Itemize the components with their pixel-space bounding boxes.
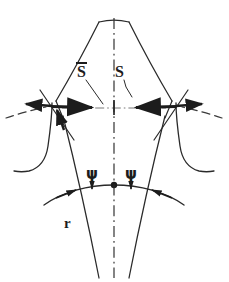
s-leader-line [124,80,132,97]
figure-container: S S r ψ ψ [0,0,229,282]
radius-label: r [64,216,71,231]
s-dimension-arrow [136,107,176,108]
psi-left-label: ψ [86,167,98,182]
technical-diagram-svg [0,0,229,282]
right-crossing-lines [154,90,188,140]
s-label: S [115,64,124,80]
s-bar-glyph: S [77,62,86,80]
s-bar-dimension-arrow [52,107,92,108]
psi-right-label: ψ [125,167,137,182]
pitch-arc-left-arrowhead [56,190,76,198]
left-arc-extension [6,107,46,118]
left-crossing-lines [40,90,74,140]
left-outward-arrow [26,104,52,106]
s-bar-label: S [77,62,86,80]
s-bar-leader-line [86,80,103,104]
pitch-arc-right-arrowhead [152,190,172,198]
right-arc-extension [182,107,222,118]
right-outward-arrow [176,104,202,106]
